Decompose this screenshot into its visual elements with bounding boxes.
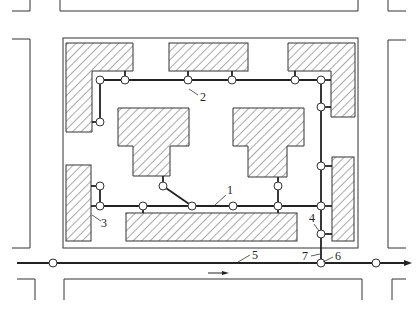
site-plan-diagram: 1 2 3 4 5 6 7 (0, 0, 418, 314)
building-center-left-t (118, 108, 189, 176)
label-3: 3 (101, 216, 107, 230)
node (49, 259, 57, 267)
block-bottom-left (17, 279, 35, 300)
node (184, 76, 192, 84)
label-7: 7 (302, 249, 308, 263)
node (317, 259, 325, 267)
node (317, 202, 325, 210)
node (228, 76, 236, 84)
block-bottom-center (64, 279, 362, 300)
block-mid-left (12, 39, 30, 248)
block-top-left (12, 0, 30, 11)
node (188, 202, 196, 210)
node (96, 118, 104, 126)
node (317, 162, 325, 170)
flow-arrow-head-icon (404, 260, 412, 266)
node (274, 182, 282, 190)
node (317, 76, 325, 84)
node (96, 182, 104, 190)
node (121, 76, 129, 84)
node (317, 103, 325, 111)
building-right (332, 157, 354, 241)
label-2: 2 (200, 90, 206, 104)
node (372, 259, 380, 267)
node (229, 202, 237, 210)
service-connection (163, 186, 192, 206)
block-bottom-right (392, 279, 406, 300)
node (291, 76, 299, 84)
building-bottom-long (126, 213, 297, 241)
building-center-right-t (233, 108, 304, 177)
node (317, 230, 325, 238)
flow-direction-arrow-icon (208, 271, 229, 275)
block-top-center (60, 0, 358, 11)
node (159, 182, 167, 190)
node (96, 202, 104, 210)
label-1: 1 (227, 183, 233, 197)
pipe-loop-bottom (100, 186, 321, 206)
building-left (66, 165, 91, 241)
node (274, 202, 282, 210)
block-top-right (388, 0, 406, 11)
label-6: 6 (335, 249, 341, 263)
block-mid-right (388, 40, 406, 248)
building-top-center (169, 43, 248, 71)
label-5: 5 (252, 248, 258, 262)
label-4: 4 (309, 211, 315, 225)
node (139, 202, 147, 210)
node (96, 76, 104, 84)
